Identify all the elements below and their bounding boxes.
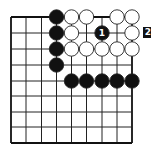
white-stone <box>125 42 139 56</box>
white-stone <box>64 10 78 24</box>
white-stone <box>125 10 139 24</box>
black-stone-move-1: 1 <box>95 26 109 40</box>
black-stone <box>125 74 139 88</box>
white-stone <box>79 10 93 24</box>
black-stone <box>64 74 78 88</box>
white-stone <box>79 42 93 56</box>
move-number-label: 1 <box>99 28 105 38</box>
black-stone <box>95 74 109 88</box>
black-stone <box>110 74 124 88</box>
black-stone <box>49 10 63 24</box>
white-stone <box>95 42 109 56</box>
black-stone <box>79 74 93 88</box>
go-board-diagram: 1 <box>0 0 151 152</box>
white-stone <box>125 26 139 40</box>
white-stone <box>64 42 78 56</box>
white-stone <box>64 26 78 40</box>
black-stone <box>49 58 63 72</box>
black-stone <box>49 42 63 56</box>
white-stone <box>110 10 124 24</box>
move-2-label: 2 <box>143 27 151 38</box>
white-stone <box>110 42 124 56</box>
black-stone <box>49 26 63 40</box>
